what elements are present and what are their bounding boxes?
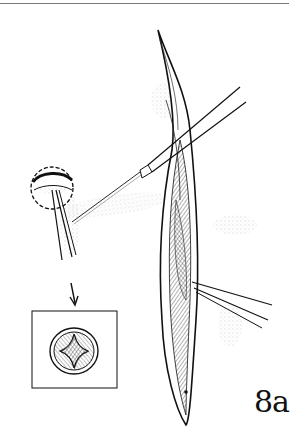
down-arrow-icon [70, 283, 78, 305]
ring-structure [31, 167, 73, 209]
surgical-illustration [0, 0, 306, 437]
inset-box [32, 311, 117, 388]
stipple-shading [59, 82, 257, 347]
figure-label: 8a [254, 384, 289, 419]
